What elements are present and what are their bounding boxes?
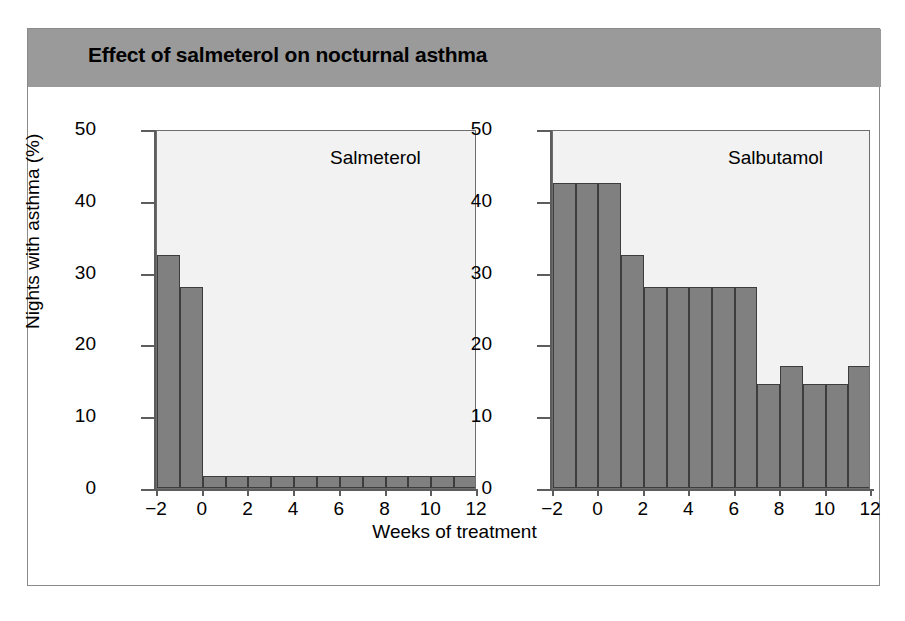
bar bbox=[757, 384, 780, 488]
bar bbox=[667, 287, 690, 488]
bar bbox=[803, 384, 826, 488]
y-axis-tick bbox=[537, 417, 551, 419]
x-axis-tick bbox=[734, 489, 736, 496]
y-axis-tick-label: 10 bbox=[52, 405, 96, 427]
y-axis-tick-label: 40 bbox=[448, 190, 492, 212]
bar bbox=[294, 476, 317, 488]
y-axis-tick-label: 0 bbox=[448, 477, 492, 499]
y-axis-tick bbox=[141, 130, 155, 132]
bar bbox=[689, 287, 712, 488]
bar bbox=[248, 476, 271, 488]
figure-title: Effect of salmeterol on nocturnal asthma bbox=[88, 43, 487, 67]
x-axis-tick-label: 8 bbox=[759, 498, 799, 520]
y-axis-line-left bbox=[154, 130, 156, 490]
bar bbox=[317, 476, 340, 488]
bar bbox=[621, 255, 644, 488]
bars-salbutamol bbox=[553, 131, 869, 488]
x-axis-tick-label: 12 bbox=[456, 498, 496, 520]
y-axis-tick bbox=[537, 130, 551, 132]
y-axis-tick bbox=[141, 417, 155, 419]
y-axis-line-right bbox=[550, 130, 552, 490]
x-axis-tick bbox=[688, 489, 690, 496]
x-axis-tick-label: 6 bbox=[319, 498, 359, 520]
y-axis-tick-label: 30 bbox=[52, 262, 96, 284]
x-axis-tick-label: −2 bbox=[136, 498, 176, 520]
x-axis-tick-label: 2 bbox=[623, 498, 663, 520]
x-axis-tick bbox=[385, 489, 387, 496]
bar bbox=[735, 287, 758, 488]
x-axis-tick-label: 4 bbox=[273, 498, 313, 520]
x-axis-tick bbox=[597, 489, 599, 496]
x-axis-tick bbox=[870, 489, 872, 496]
x-axis-tick bbox=[643, 489, 645, 496]
y-axis-tick bbox=[537, 202, 551, 204]
x-axis-line-left bbox=[142, 489, 478, 491]
bar bbox=[203, 476, 226, 488]
figure-title-bar: Effect of salmeterol on nocturnal asthma bbox=[28, 29, 881, 87]
bar bbox=[712, 287, 735, 488]
plot-area-salbutamol bbox=[552, 130, 870, 489]
x-axis-tick-label: 10 bbox=[805, 498, 845, 520]
panel-label-salmeterol: Salmeterol bbox=[330, 147, 421, 169]
y-axis-tick bbox=[537, 274, 551, 276]
figure-frame: Effect of salmeterol on nocturnal asthma… bbox=[27, 28, 880, 586]
x-axis-tick-label: 12 bbox=[850, 498, 890, 520]
bar bbox=[386, 476, 409, 488]
x-axis-tick bbox=[552, 489, 554, 496]
y-axis-tick bbox=[141, 202, 155, 204]
y-axis-tick-label: 50 bbox=[448, 118, 492, 140]
y-axis-tick-label: 40 bbox=[52, 190, 96, 212]
x-axis-tick bbox=[156, 489, 158, 496]
bar bbox=[576, 183, 599, 488]
y-axis-tick-label: 50 bbox=[52, 118, 96, 140]
y-axis-tick-label: 20 bbox=[448, 333, 492, 355]
x-axis-title: Weeks of treatment bbox=[28, 521, 881, 543]
x-axis-tick-label: 10 bbox=[410, 498, 450, 520]
bar bbox=[826, 384, 849, 488]
panel-label-salbutamol: Salbutamol bbox=[728, 147, 823, 169]
y-axis-tick bbox=[537, 489, 551, 491]
y-axis-tick bbox=[141, 345, 155, 347]
plot-area-salmeterol bbox=[156, 130, 476, 489]
bar bbox=[226, 476, 249, 488]
y-axis-tick bbox=[537, 345, 551, 347]
y-axis-tick-label: 20 bbox=[52, 333, 96, 355]
x-axis-tick bbox=[293, 489, 295, 496]
bar bbox=[180, 287, 203, 488]
y-axis-title: Nights with asthma (%) bbox=[22, 134, 44, 329]
bar bbox=[598, 183, 621, 488]
bar bbox=[780, 366, 803, 488]
bar bbox=[340, 476, 363, 488]
x-axis-tick bbox=[430, 489, 432, 496]
y-axis-tick-label: 0 bbox=[52, 477, 96, 499]
y-axis-tick-label: 10 bbox=[448, 405, 492, 427]
x-axis-tick-label: 0 bbox=[577, 498, 617, 520]
x-axis-tick-label: 2 bbox=[227, 498, 267, 520]
bars-salmeterol bbox=[157, 131, 475, 488]
bar bbox=[553, 183, 576, 488]
x-axis-tick-label: 6 bbox=[714, 498, 754, 520]
y-axis-tick bbox=[141, 489, 155, 491]
x-axis-tick-label: −2 bbox=[532, 498, 572, 520]
y-axis-tick bbox=[141, 274, 155, 276]
bar bbox=[848, 366, 870, 488]
x-axis-tick bbox=[247, 489, 249, 496]
bar bbox=[157, 255, 180, 488]
bar bbox=[408, 476, 431, 488]
x-axis-tick bbox=[202, 489, 204, 496]
x-axis-tick bbox=[339, 489, 341, 496]
x-axis-tick bbox=[825, 489, 827, 496]
bar bbox=[271, 476, 294, 488]
x-axis-tick bbox=[779, 489, 781, 496]
y-axis-tick-label: 30 bbox=[448, 262, 492, 284]
bar bbox=[644, 287, 667, 488]
x-axis-tick-label: 8 bbox=[365, 498, 405, 520]
bar bbox=[363, 476, 386, 488]
x-axis-tick-label: 0 bbox=[182, 498, 222, 520]
x-axis-tick-label: 4 bbox=[668, 498, 708, 520]
